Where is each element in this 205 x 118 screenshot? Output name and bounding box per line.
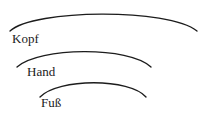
arc-label-hand: Hand bbox=[27, 65, 55, 78]
arc-label-kopf: Kopf bbox=[12, 32, 39, 45]
nested-arc-diagram: Kopf Hand Fuß bbox=[0, 0, 205, 118]
arc-kopf bbox=[10, 14, 197, 31]
arc-label-fuss: Fuß bbox=[41, 96, 61, 109]
arc-layer bbox=[0, 0, 205, 118]
